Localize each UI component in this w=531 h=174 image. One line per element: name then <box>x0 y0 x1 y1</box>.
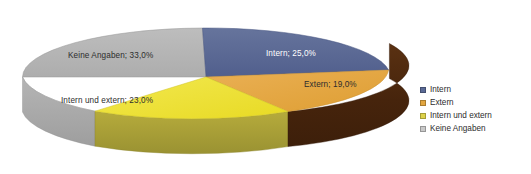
legend-item-intern-und-extern[interactable]: Intern und extern <box>420 109 528 122</box>
pie-data-label-intern: Intern; 25,0% <box>266 49 316 58</box>
legend-item-intern[interactable]: Intern <box>420 83 528 96</box>
legend-label-intern-und-extern: Intern und extern <box>430 111 492 120</box>
legend-label-extern: Extern <box>430 98 454 107</box>
legend-swatch-icon-intern <box>420 87 426 93</box>
pie-slice-side-keine-angaben <box>23 77 96 146</box>
legend-swatch-icon-extern <box>420 100 426 106</box>
chart-legend: Intern Extern Intern und extern Keine An… <box>420 83 528 135</box>
legend-item-extern[interactable]: Extern <box>420 96 528 109</box>
legend-swatch-icon-keine-angaben <box>420 126 426 132</box>
legend-label-keine-angaben: Keine Angaben <box>430 124 486 133</box>
pie-data-label-intern-und-extern: Intern und extern; 23,0% <box>61 96 153 105</box>
pie-chart: Intern; 25,0% Extern; 19,0% Intern und e… <box>0 0 531 174</box>
pie-data-label-extern: Extern; 19,0% <box>304 80 357 89</box>
legend-label-intern: Intern <box>430 85 451 94</box>
legend-item-keine-angaben[interactable]: Keine Angaben <box>420 122 528 135</box>
legend-swatch-icon-intern-und-extern <box>420 113 426 119</box>
pie-data-label-keine-angaben: Keine Angaben; 33,0% <box>68 51 153 60</box>
